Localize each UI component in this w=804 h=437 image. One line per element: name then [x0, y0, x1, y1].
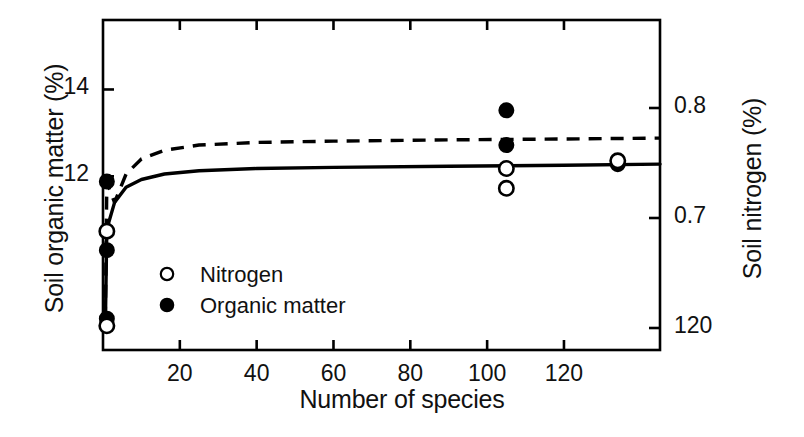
x-tick-label: 100 — [447, 360, 527, 387]
organic-matter-points — [100, 103, 625, 325]
x-tick-label: 20 — [140, 360, 220, 387]
organic-matter-point — [100, 243, 114, 257]
plot-frame — [103, 20, 660, 350]
nitrogen-point — [100, 224, 114, 238]
nitrogen-point — [499, 181, 513, 195]
y-tick-label-left: 12 — [7, 160, 89, 187]
nitrogen-point — [100, 319, 114, 333]
x-axis-ticks-top — [180, 20, 564, 30]
y-axis-left-title: Soil organic matter (%) — [40, 19, 69, 359]
x-tick-label: 120 — [524, 360, 604, 387]
x-tick-label: 40 — [217, 360, 297, 387]
y-axis-right-title: Soil nitrogen (%) — [738, 19, 767, 359]
x-tick-label: 80 — [370, 360, 450, 387]
y-tick-label-right: 120 — [674, 312, 764, 339]
legend-marker-nitrogen — [161, 268, 173, 280]
x-axis-title: Number of species — [0, 385, 804, 414]
organic-matter-point — [100, 175, 114, 189]
x-tick-label: 60 — [293, 360, 373, 387]
nitrogen-points — [100, 154, 625, 333]
y-axis-right-ticks — [649, 108, 660, 328]
nitrogen-point — [499, 161, 513, 175]
y-tick-label-right: 0.8 — [674, 92, 764, 119]
y-axis-left-ticks — [103, 89, 114, 176]
legend-marker-organic-matter — [161, 299, 173, 311]
nitrogen-curve — [105, 164, 660, 328]
organic-matter-point — [499, 138, 513, 152]
organic-matter-point — [499, 103, 513, 117]
y-tick-label-left: 14 — [7, 73, 89, 100]
legend-label-nitrogen: Nitrogen — [200, 262, 283, 288]
chart-figure: Soil organic matter (%) Soil nitrogen (%… — [0, 0, 804, 437]
legend-label-organic-matter: Organic matter — [200, 293, 346, 319]
y-tick-label-right: 0.7 — [674, 202, 764, 229]
nitrogen-point — [611, 154, 625, 168]
x-axis-ticks — [180, 340, 564, 350]
